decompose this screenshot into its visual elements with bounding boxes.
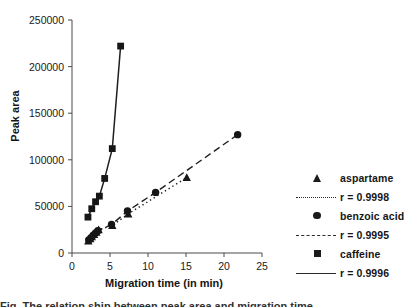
data-point-square [117,43,124,50]
legend-label: r = 0.9995 [338,229,389,241]
x-tick-label: 15 [180,260,192,272]
chart-legend: aspartamer = 0.9998benzoic acidr = 0.999… [296,168,403,282]
y-tick-label: 200000 [29,61,64,73]
line-stroke [296,273,336,274]
data-point-square [88,205,95,212]
legend-row: caffeine [296,244,403,263]
data-point-circle [152,189,159,196]
legend-row: r = 0.9996 [296,263,403,282]
legend-row: r = 0.9998 [296,187,403,206]
triangle-marker [296,174,338,182]
y-axis-title: Peak area [9,76,21,156]
figure-caption-partial: Fig. The relation ship between peak area… [0,301,403,307]
x-axis-title: Migration time (in min) [64,277,264,289]
caption-text: Fig. The relation ship between peak area… [0,301,403,307]
data-point-triangle [183,173,191,181]
y-tick-label: 250000 [29,14,64,26]
fit-line-caffeine [88,46,121,217]
x-tick-label: 20 [218,260,230,272]
triangle-glyph [313,174,321,182]
legend-label: benzoic acid [338,210,404,222]
legend-label: r = 0.9996 [338,267,389,279]
x-tick-label: 5 [107,260,113,272]
data-point-circle [94,227,101,234]
x-tick-label: 10 [142,260,154,272]
legend-label: aspartame [338,172,393,184]
data-point-circle [234,131,241,138]
line-stroke [296,235,336,236]
x-tick-label: 25 [256,260,268,272]
y-tick-label: 150000 [29,107,64,119]
data-point-square [101,175,108,182]
line-stroke [296,197,336,198]
data-point-circle [124,207,131,214]
square-glyph [314,250,321,257]
axis-layer: 0500001000001500002000002500000510152025 [29,14,268,272]
data-point-square [109,145,116,152]
legend-label: caffeine [338,248,380,260]
data-point-square [96,193,103,200]
y-tick-label: 0 [58,247,64,259]
x-tick-label: 0 [69,260,75,272]
y-tick-label: 100000 [29,154,64,166]
circle-marker [296,212,338,220]
square-marker [296,250,338,257]
fit-line-aspartame [88,178,187,241]
data-point-circle [108,221,115,228]
circle-glyph [313,212,321,220]
y-tick-label: 50000 [35,200,64,212]
legend-label: r = 0.9998 [338,191,389,203]
legend-row: aspartame [296,168,403,187]
legend-row: r = 0.9995 [296,225,403,244]
series-layer [84,43,241,245]
data-point-square [85,214,92,221]
legend-row: benzoic acid [296,206,403,225]
